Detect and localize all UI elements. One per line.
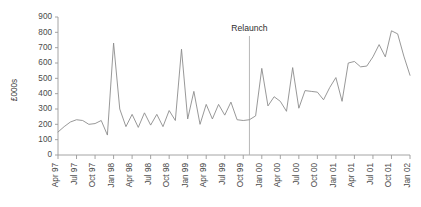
y-tick-label: 300	[38, 104, 52, 113]
x-tick-label: Oct 99	[236, 163, 245, 188]
x-tick-label: Jul 01	[366, 163, 375, 185]
y-tick-label: 500	[38, 74, 52, 83]
x-tick-label: Jan 01	[329, 163, 338, 188]
data-series-line	[58, 31, 410, 135]
y-tick-label: 400	[38, 89, 52, 98]
x-tick-label: Jul 00	[292, 163, 301, 185]
y-tick-label: 700	[38, 43, 52, 52]
x-tick-label: Oct 98	[162, 163, 171, 188]
y-tick-label: 100	[38, 135, 52, 144]
y-tick-label: 200	[38, 120, 52, 129]
y-tick-labels: 0100200300400500600700800900	[38, 12, 52, 159]
x-tick-marks	[58, 155, 410, 159]
chart-canvas: 0100200300400500600700800900 Apr 97Jul 9…	[0, 0, 421, 207]
x-tick-label: Apr 97	[51, 163, 60, 188]
x-tick-label: Jan 00	[255, 163, 264, 188]
x-tick-label: Jul 98	[144, 163, 153, 185]
y-tick-label: 800	[38, 28, 52, 37]
relaunch-annotation: Relaunch	[231, 23, 268, 155]
y-axis	[55, 17, 58, 155]
y-tick-label: 900	[38, 12, 52, 21]
x-tick-label: Oct 00	[310, 163, 319, 188]
x-axis	[58, 155, 410, 159]
x-tick-label: Apr 99	[199, 163, 208, 188]
y-tick-label: 600	[38, 58, 52, 67]
x-tick-label: Oct 01	[384, 163, 393, 188]
x-tick-label: Jul 99	[218, 163, 227, 185]
x-tick-label: Oct 97	[88, 163, 97, 188]
x-tick-label: Jan 02	[403, 163, 412, 188]
x-tick-label: Jul 97	[70, 163, 79, 185]
x-tick-label: Jan 98	[107, 163, 116, 188]
y-tick-label: 0	[47, 150, 52, 159]
x-tick-label: Apr 01	[347, 163, 356, 188]
y-axis-title: £000s	[10, 79, 19, 101]
x-tick-label: Jan 99	[181, 163, 190, 188]
line-chart: 0100200300400500600700800900 Apr 97Jul 9…	[0, 0, 421, 207]
x-tick-label: Apr 00	[273, 163, 282, 188]
x-tick-label: Apr 98	[125, 163, 134, 188]
relaunch-label: Relaunch	[231, 23, 268, 33]
x-tick-labels: Apr 97Jul 97Oct 97Jan 98Apr 98Jul 98Oct …	[51, 163, 412, 188]
